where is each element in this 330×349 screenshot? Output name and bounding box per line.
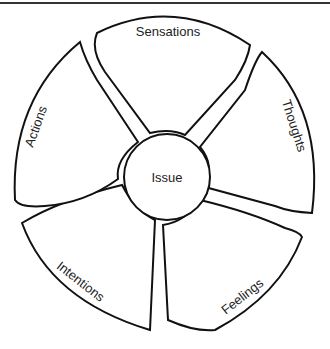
center-label: Issue <box>151 170 182 185</box>
issue-diagram: Issue Sensations Thoughts Feelings Inten… <box>0 0 330 349</box>
segment-label-sensations: Sensations <box>136 24 201 39</box>
